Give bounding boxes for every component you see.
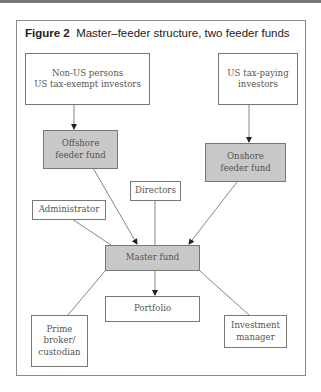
- node-non-us-investors: Non-US persons US tax-exempt investors: [25, 53, 150, 105]
- node-onshore-feeder-fund: Onshore feeder fund: [205, 143, 286, 182]
- node-us-taxpaying-investors: US tax-paying investors: [218, 53, 298, 105]
- node-label: Directors: [135, 185, 176, 197]
- node-investment-manager: Investment manager: [224, 315, 287, 348]
- node-portfolio: Portfolio: [105, 296, 200, 322]
- node-offshore-feeder-fund: Offshore feeder fund: [43, 130, 118, 169]
- node-label: Administrator: [39, 204, 100, 216]
- edge-master-investmentmanager: [200, 271, 249, 315]
- node-prime-broker-custodian: Prime broker/ custodian: [31, 315, 88, 367]
- edge-master-primebroker: [68, 271, 105, 315]
- node-label: Prime broker/ custodian: [38, 324, 80, 359]
- node-label: Investment manager: [231, 320, 280, 343]
- node-label: Offshore feeder fund: [55, 138, 106, 161]
- node-label: Onshore feeder fund: [220, 151, 271, 174]
- node-label: Portfolio: [134, 303, 171, 315]
- node-label: US tax-paying investors: [227, 68, 288, 91]
- node-master-fund: Master fund: [105, 245, 200, 271]
- node-label: Non-US persons US tax-exempt investors: [34, 68, 141, 91]
- node-administrator: Administrator: [32, 200, 106, 220]
- edge-administrator-master: [72, 219, 111, 245]
- node-label: Master fund: [126, 252, 179, 264]
- edge-onshore-master: [189, 182, 237, 244]
- node-directors: Directors: [130, 181, 181, 201]
